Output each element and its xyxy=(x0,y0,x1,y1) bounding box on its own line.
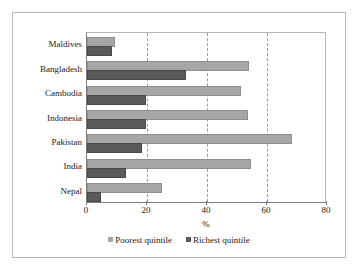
bar-group xyxy=(87,57,325,81)
x-tick-label: 60 xyxy=(262,205,271,216)
x-tick-mark xyxy=(326,201,327,205)
x-tick-label: 0 xyxy=(84,205,89,216)
bar-richest xyxy=(87,168,126,178)
bar-group xyxy=(87,131,325,155)
x-tick-mark xyxy=(86,201,87,205)
bar-group xyxy=(87,155,325,179)
bar-richest xyxy=(87,119,146,129)
legend-item[interactable]: Poorest quintile xyxy=(108,235,172,246)
legend-item[interactable]: Richest quintile xyxy=(186,235,250,246)
bar-richest xyxy=(87,95,146,105)
category-label: Nepal xyxy=(61,186,83,196)
category-label: Bangladesh xyxy=(40,64,82,74)
bar-richest xyxy=(87,70,186,80)
x-tick-label: 80 xyxy=(322,205,331,216)
bar-group xyxy=(87,33,325,57)
category-label: Maldives xyxy=(49,39,83,49)
x-tick-mark xyxy=(266,201,267,205)
category-label: Cambodia xyxy=(45,88,82,98)
x-axis-title: % xyxy=(86,219,326,230)
category-label: Indonesia xyxy=(47,113,82,123)
y-axis-category-labels: MaldivesBangladeshCambodiaIndonesiaPakis… xyxy=(13,32,82,203)
x-tick-label: 40 xyxy=(202,205,211,216)
bar-richest xyxy=(87,46,112,56)
plot-area xyxy=(86,32,326,203)
legend-label: Poorest quintile xyxy=(115,235,172,246)
x-tick-mark xyxy=(206,201,207,205)
x-tick-mark xyxy=(146,201,147,205)
bar-group xyxy=(87,82,325,106)
legend-swatch-icon xyxy=(186,237,191,242)
category-label: India xyxy=(64,161,83,171)
bar-richest xyxy=(87,192,101,202)
chart-legend: Poorest quintileRichest quintile xyxy=(13,235,345,246)
chart-figure: MaldivesBangladeshCambodiaIndonesiaPakis… xyxy=(12,12,346,258)
x-axis-tick-labels: 020406080 xyxy=(86,205,326,219)
bar-richest xyxy=(87,143,142,153)
category-label: Pakistan xyxy=(52,137,83,147)
x-tick-label: 20 xyxy=(142,205,151,216)
legend-swatch-icon xyxy=(108,237,113,242)
legend-label: Richest quintile xyxy=(193,235,250,246)
bar-group xyxy=(87,106,325,130)
